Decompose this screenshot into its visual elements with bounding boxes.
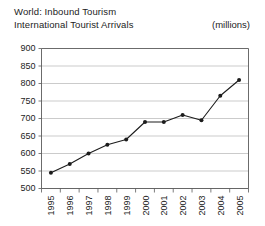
y-axis-tick-label: 650 (20, 131, 35, 141)
y-axis-tick-labels: 500550600650700750800850900 (20, 43, 35, 193)
x-axis-tick-label: 1996 (65, 196, 75, 216)
x-axis-tick-label: 1998 (103, 196, 113, 216)
y-axis-tick-label: 550 (20, 166, 35, 176)
series-data-point (124, 138, 128, 142)
data-series-arrivals (49, 78, 241, 175)
x-axis-tick-label: 1997 (84, 196, 94, 216)
series-data-point (49, 171, 53, 175)
chart-plot-area: 500550600650700750800850900 199519961997… (0, 0, 265, 226)
series-data-point (199, 118, 203, 122)
x-axis-tick-label: 1999 (122, 196, 132, 216)
x-axis-tick-label: 2005 (235, 196, 245, 216)
x-axis-tick-label: 2004 (216, 196, 226, 216)
gridlines-group (39, 49, 249, 189)
x-axis-tick-label: 1995 (46, 196, 56, 216)
series-data-point (181, 113, 185, 117)
y-axis-tick-label: 750 (20, 96, 35, 106)
y-axis-tick-label: 700 (20, 113, 35, 123)
x-axis-tick-label: 2002 (178, 196, 188, 216)
series-data-point (162, 120, 166, 124)
series-data-point (105, 143, 109, 147)
series-data-point (87, 152, 91, 156)
series-line-arrivals (51, 80, 239, 173)
y-axis-tick-label: 800 (20, 78, 35, 88)
x-axis-tick-label: 2000 (141, 196, 151, 216)
series-data-point (68, 162, 72, 166)
x-axis-tick-label: 2001 (159, 196, 169, 216)
y-axis-tick-label: 900 (20, 43, 35, 53)
x-axis-tick-label: 2003 (197, 196, 207, 216)
y-axis-tick-label: 500 (20, 183, 35, 193)
y-axis-tick-label: 600 (20, 148, 35, 158)
y-axis-tick-label: 850 (20, 61, 35, 71)
x-axis-tick-labels: 1995199619971998199920002001200220032004… (46, 196, 244, 216)
series-data-point (218, 94, 222, 98)
series-data-point (237, 78, 241, 82)
chart-figure: World: Inbound Tourism International Tou… (0, 0, 265, 226)
series-data-point (143, 120, 147, 124)
